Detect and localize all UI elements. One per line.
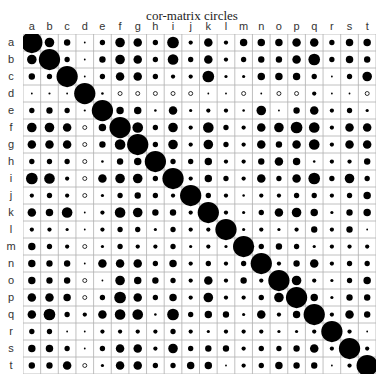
correlation-circle-p-t [364,294,370,300]
correlation-circle-k-f [115,207,126,218]
correlation-circle-b-l [224,57,228,61]
correlation-circle-i-e [98,174,107,183]
correlation-circle-t-s [347,363,351,367]
correlation-circle-r-h [153,329,157,333]
correlation-circle-n-q [310,259,319,268]
correlation-circle-e-p [293,107,299,113]
correlation-circle-s-s [339,338,360,359]
correlation-circle-l-s [346,226,352,232]
correlation-circle-c-e [100,74,105,79]
correlation-circle-p-p [286,287,307,308]
correlation-circle-e-g [134,107,141,114]
correlation-circle-j-t [363,192,370,199]
correlation-circle-l-j [189,227,193,231]
correlation-circle-r-p [295,330,298,333]
correlation-circle-h-c [64,159,69,164]
correlation-circle-a-j [189,40,193,44]
correlation-circle-c-s [347,74,352,79]
correlation-circle-g-c [63,140,72,149]
correlation-circle-f-k [203,122,214,133]
correlation-circle-g-a [28,140,37,149]
correlation-circle-t-c [63,361,72,370]
correlation-circle-r-a [29,329,34,334]
correlation-circle-a-m [240,39,247,46]
correlation-circle-a-g [133,38,142,47]
correlation-circle-f-j [189,125,193,129]
row-label-m: m [4,238,18,255]
correlation-circle-e-h [154,109,157,112]
correlation-circle-o-k [204,276,213,285]
correlation-circle-b-t [364,56,370,62]
correlation-circle-p-c [63,294,70,301]
correlation-circle-k-o [275,208,284,217]
column-label-l: l [217,20,235,32]
correlation-circle-r-c [66,331,68,333]
column-label-a: a [23,20,41,32]
correlation-circle-g-o [276,141,282,147]
correlation-circle-d-c [66,93,68,95]
correlation-circle-b-b [39,49,60,70]
correlation-circle-d-o [277,92,281,96]
correlation-circle-c-h [153,74,158,79]
correlation-circle-k-a [28,208,37,217]
row-label-p: p [4,289,18,306]
correlation-circle-l-l [215,219,236,240]
correlation-circle-p-b [45,293,54,302]
correlation-circle-h-f [117,158,123,164]
correlation-circle-m-n [259,244,264,249]
correlation-circle-d-q [312,91,316,95]
correlation-circle-h-i [170,159,175,164]
correlation-circle-n-l [224,261,228,265]
row-label-o: o [4,272,18,289]
correlation-circle-k-p [292,208,302,218]
correlation-circle-f-o [274,123,284,133]
correlation-circle-a-o [275,39,282,46]
correlation-circle-t-q [311,362,317,368]
correlation-circle-c-a [29,73,35,79]
correlation-circle-e-f [116,107,123,114]
correlation-circle-g-h [153,142,158,147]
correlation-circle-q-j [188,312,193,317]
correlation-circle-l-r [330,227,334,231]
correlation-circle-c-t [362,72,372,82]
correlation-circle-a-b [45,38,55,48]
column-label-s: s [341,20,359,32]
correlation-circle-d-d [74,83,95,104]
correlation-circle-k-n [259,210,264,215]
correlation-circle-e-i [169,106,178,115]
correlation-circle-p-q [311,294,318,301]
correlation-circle-f-e [99,124,106,131]
correlation-circle-l-n [259,227,263,231]
correlation-circle-d-j [189,92,193,96]
correlation-circle-t-k [205,362,212,369]
correlation-circle-r-m [242,329,246,333]
correlation-circle-j-b [47,193,52,198]
correlation-circle-o-o [268,270,289,291]
correlation-circle-q-m [242,313,245,316]
correlation-circle-t-r [331,365,333,367]
correlation-circle-l-f [117,227,122,232]
correlation-circle-q-o [277,312,281,316]
correlation-circle-r-g [136,329,140,333]
correlation-circle-q-c [64,312,69,317]
row-label-c: c [4,68,18,85]
column-label-q: q [305,20,323,32]
correlation-circle-o-e [102,280,104,282]
correlation-circle-s-f [116,344,125,353]
correlation-circle-l-a [30,227,34,231]
correlation-circle-g-s [345,140,354,149]
correlation-circle-b-j [188,57,193,62]
correlation-circle-b-c [64,57,69,62]
correlation-circle-g-p [292,140,301,149]
correlation-circle-j-k [206,193,211,198]
correlation-circle-l-q [311,226,317,232]
correlation-circle-d-t [365,92,369,96]
column-label-b: b [41,20,59,32]
correlation-circle-g-e [99,141,105,147]
correlation-circle-l-p [294,227,298,231]
column-label-m: m [235,20,253,32]
correlation-circle-k-l [224,210,228,214]
correlation-circle-d-s [349,93,351,95]
correlation-circle-j-j [180,185,201,206]
correlation-circle-c-d [84,76,86,78]
